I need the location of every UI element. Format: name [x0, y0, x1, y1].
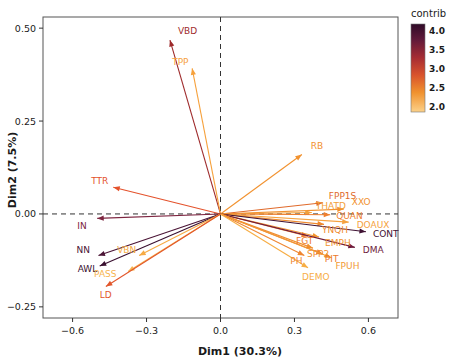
variable-label: TPP — [171, 57, 189, 67]
legend-title: contrib — [411, 8, 446, 19]
x-axis-title: Dim1 (30.3%) — [198, 345, 282, 358]
x-tick-label: −0.3 — [135, 325, 158, 336]
variable-label: CONT — [373, 229, 399, 239]
y-tick-label: 0.50 — [15, 23, 36, 34]
variable-label: YNQH — [321, 225, 348, 235]
legend-tick-label: 3.5 — [429, 45, 445, 55]
variable-label: EMPH — [325, 238, 351, 248]
variable-label: FGT — [296, 236, 314, 246]
x-tick-label: 0.0 — [213, 325, 228, 336]
variable-label: PH — [290, 256, 302, 266]
legend-colorbar — [411, 24, 425, 112]
variable-label: IN — [77, 221, 86, 231]
variable-label: XXO — [352, 197, 371, 207]
variable-label: PASS — [94, 269, 117, 279]
variable-label: NN — [76, 245, 89, 255]
variable-label: LD — [100, 290, 112, 300]
variable-label: RB — [311, 141, 323, 151]
pca-biplot: −0.6−0.30.00.30.6−0.250.000.250.50 VBDTP… — [0, 0, 461, 363]
variable-label: TTR — [90, 176, 108, 186]
x-tick-label: 0.6 — [361, 325, 376, 336]
chart-background — [0, 0, 461, 363]
variable-label: VBN — [117, 245, 136, 255]
y-axis-title: Dim2 (7.5%) — [6, 132, 19, 208]
y-tick-label: −0.25 — [7, 301, 36, 312]
legend-tick-label: 2.5 — [429, 83, 445, 93]
variable-label: DMA — [363, 245, 385, 255]
legend-tick-label: 2.0 — [429, 102, 445, 112]
chart-root: −0.6−0.30.00.30.6−0.250.000.250.50 VBDTP… — [0, 0, 461, 363]
y-tick-label: 0.00 — [15, 208, 36, 219]
variable-label: FPUH — [335, 261, 359, 271]
legend-tick-label: 3.0 — [429, 64, 445, 74]
variable-label: DEMO — [302, 272, 329, 282]
x-tick-label: −0.6 — [61, 325, 84, 336]
legend-tick-label: 4.0 — [429, 26, 445, 36]
y-tick-label: 0.25 — [15, 116, 36, 127]
x-tick-label: 0.3 — [287, 325, 302, 336]
variable-label: VBD — [178, 26, 197, 36]
